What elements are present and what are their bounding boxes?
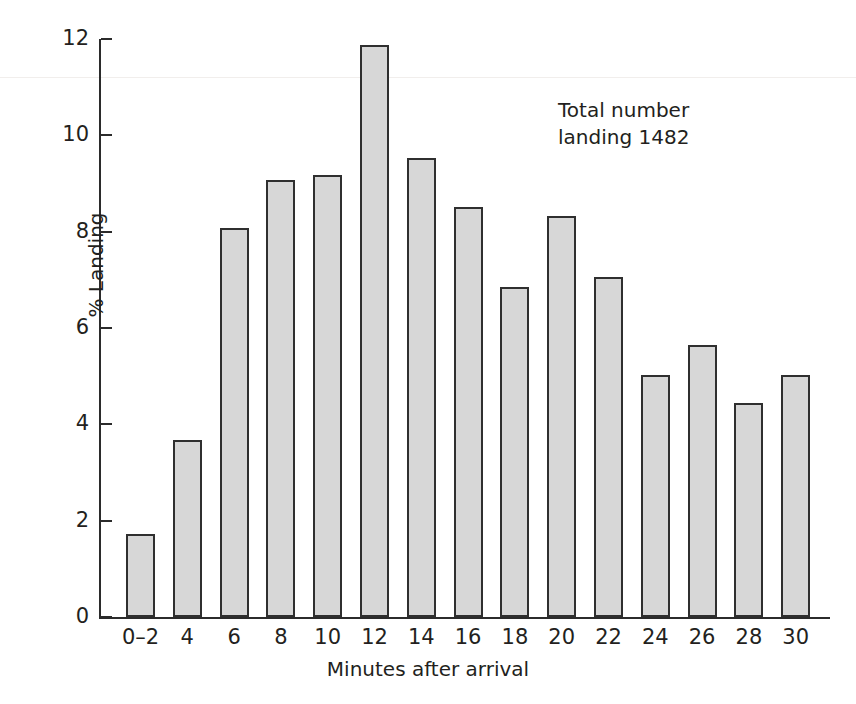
y-tick-mark (101, 423, 112, 425)
bar (266, 180, 295, 617)
bar (734, 403, 763, 617)
y-tick-mark (101, 134, 112, 136)
bar (126, 534, 155, 617)
x-tick-label: 30 (756, 625, 836, 649)
y-tick-label: 12 (39, 28, 89, 49)
bar (641, 375, 670, 617)
bar (313, 175, 342, 617)
bar (688, 345, 717, 617)
y-tick-label: 2 (39, 510, 89, 531)
y-tick-label: 6 (39, 317, 89, 338)
total-landing-annotation: Total number landing 1482 (558, 97, 689, 151)
bar (547, 216, 576, 617)
x-axis-title: Minutes after arrival (0, 657, 856, 681)
y-tick-label: 10 (39, 124, 89, 145)
x-axis-line (99, 617, 830, 619)
y-tick-mark (101, 231, 112, 233)
bar (220, 228, 249, 617)
y-tick-mark (101, 327, 112, 329)
y-tick-mark (101, 520, 112, 522)
y-tick-label: 4 (39, 413, 89, 434)
bar (594, 277, 623, 617)
y-tick-mark (101, 38, 112, 40)
bar (173, 440, 202, 617)
y-tick-label: 0 (39, 606, 89, 627)
bar (360, 45, 389, 617)
y-tick-mark (101, 616, 112, 618)
bar (407, 158, 436, 617)
y-tick-label: 8 (39, 221, 89, 242)
bar (500, 287, 529, 617)
bar-chart: % Landing 024681012 0–246810121416182022… (0, 0, 856, 704)
scan-artifact-line (0, 77, 856, 78)
bar (454, 207, 483, 617)
bar (781, 375, 810, 617)
